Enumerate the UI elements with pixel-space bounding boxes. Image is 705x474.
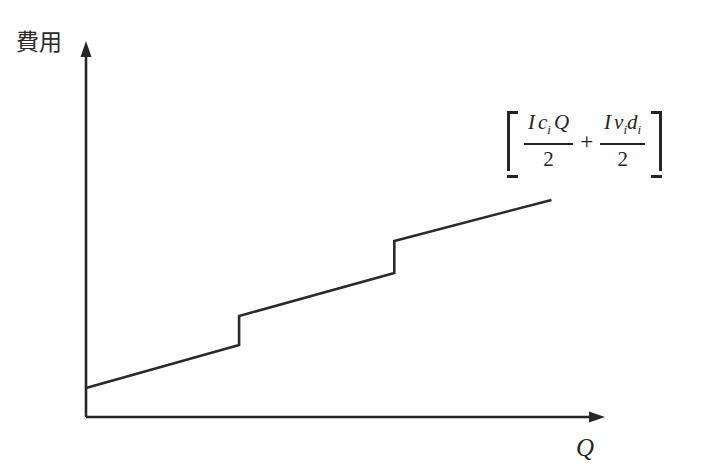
- formula-term-2-numerator: Ividi: [600, 110, 645, 143]
- formula-term-2: Ividi 2: [600, 110, 645, 172]
- y-axis: [81, 41, 92, 417]
- symbol-d: d: [627, 110, 638, 134]
- cost-curve-path: [86, 200, 552, 388]
- close-bracket-icon: [651, 106, 664, 176]
- formula-term-2-denominator: 2: [617, 145, 628, 172]
- cost-formula-annotation: IciQ 2 + Ividi 2: [505, 106, 664, 176]
- cost-curve: [86, 200, 552, 388]
- formula-term-1-numerator: IciQ: [524, 110, 573, 143]
- symbol-c-subscript: i: [547, 122, 551, 137]
- formula-term-1-denominator: 2: [543, 145, 554, 172]
- x-axis-label: Q: [576, 434, 594, 462]
- symbol-Q: Q: [554, 110, 569, 134]
- plus-operator: +: [575, 130, 598, 153]
- x-axis: [86, 412, 605, 423]
- x-axis-arrowhead: [589, 412, 605, 423]
- y-axis-arrowhead: [81, 41, 92, 57]
- chart-root: 費用 Q IciQ 2 + Ividi 2: [0, 0, 705, 474]
- symbol-I-2: I: [604, 110, 611, 134]
- symbol-I-1: I: [528, 110, 535, 134]
- formula-body: IciQ 2 + Ividi 2: [518, 106, 651, 176]
- chart-canvas: [0, 0, 705, 474]
- y-axis-label: 費用: [16, 27, 62, 57]
- symbol-d-subscript: i: [638, 122, 642, 137]
- open-bracket-icon: [505, 106, 518, 176]
- symbol-c: c: [538, 110, 547, 134]
- formula-term-1: IciQ 2: [524, 110, 573, 172]
